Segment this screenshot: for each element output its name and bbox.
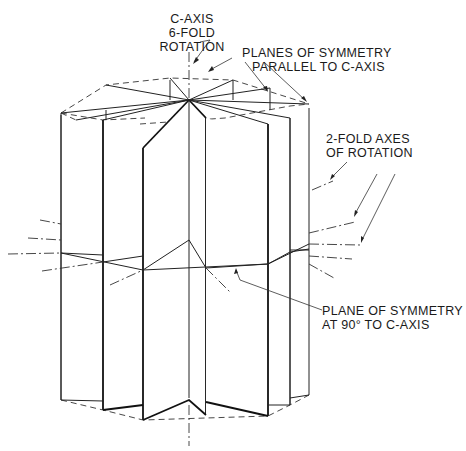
label-c-axis-line2: 6-FOLD (142, 26, 242, 40)
label-plane-90: PLANE OF SYMMETRY AT 90° TO C-AXIS (322, 304, 463, 332)
label-planes-parallel-line1: PLANES OF SYMMETRY (242, 46, 392, 60)
label-two-fold-axes: 2-FOLD AXES OF ROTATION (326, 132, 413, 160)
crystal-symmetry-diagram (0, 0, 466, 451)
label-planes-parallel: PLANES OF SYMMETRY PARALLEL TO C-AXIS (242, 46, 392, 74)
label-c-axis-line1: C-AXIS (142, 12, 242, 26)
label-two-fold-line2: OF ROTATION (326, 146, 413, 160)
label-two-fold-line1: 2-FOLD AXES (326, 132, 413, 146)
label-plane-90-line2: AT 90° TO C-AXIS (322, 318, 463, 332)
label-c-axis-line3: ROTATION (142, 40, 242, 54)
label-c-axis: C-AXIS 6-FOLD ROTATION (142, 12, 242, 54)
label-planes-parallel-line2: PARALLEL TO C-AXIS (242, 60, 392, 74)
label-plane-90-line1: PLANE OF SYMMETRY (322, 304, 463, 318)
